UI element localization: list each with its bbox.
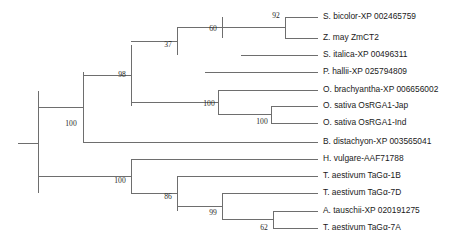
node-wheat-99-support-value: 99	[209, 208, 217, 217]
leaf-b-distachyon-label: B. distachyon-XP 003565041	[323, 136, 432, 146]
node-panicoid-37-support-value: 37	[164, 40, 172, 49]
leaf-o-sativa-ind-label: O. sativa OsRGA1-Ind	[323, 117, 407, 127]
leaf-p-hallii-label: P. hallii-XP 025794809	[323, 66, 407, 76]
node-upper-clade-support-value: 100	[65, 119, 77, 128]
leaf-s-bicolor-label: S. bicolor-XP 002465759	[323, 11, 416, 21]
node-wheat-62-support-value: 62	[260, 223, 268, 232]
leaf-o-brachyantha-label: O. brachyantha-XP 006656002	[323, 84, 439, 94]
leaf-z-may-label: Z. may ZmCT2	[323, 32, 379, 42]
support-values-group: 10098376092100100100869962	[65, 11, 280, 232]
node-grass-98-support-value: 98	[118, 70, 126, 79]
leaf-t-aestivum-7d-label: T. aestivum TaGα-7D	[323, 187, 401, 197]
node-sativa-100-support-value: 100	[256, 117, 268, 126]
node-triticeae-100-support-value: 100	[114, 176, 126, 185]
leaf-a-tauschii-label: A. tauschii-XP 020191275	[323, 205, 420, 215]
leaf-o-sativa-jap-label: O. sativa OsRGA1-Jap	[323, 100, 409, 110]
node-wheat-86-support-value: 86	[164, 192, 172, 201]
leaf-t-aestivum-1b-label: T. aestivum TaGα-1B	[323, 170, 401, 180]
leaf-h-vulgare-label: H. vulgare-AAF71788	[323, 153, 404, 163]
node-oryza-100-support-value: 100	[203, 99, 215, 108]
leaf-labels-group: S. bicolor-XP 002465759Z. may ZmCT2S. it…	[323, 11, 439, 232]
phylogenetic-tree-figure: 10098376092100100100869962 S. bicolor-XP…	[0, 0, 460, 247]
tree-canvas: 10098376092100100100869962 S. bicolor-XP…	[0, 0, 460, 247]
leaf-t-aestivum-7a-label: T. aestivum TaGα-7A	[323, 222, 401, 232]
node-sorghum-92-support-value: 92	[272, 11, 280, 20]
leaf-s-italica-label: S. italica-XP 00496311	[323, 49, 408, 59]
node-andropog-60-support-value: 60	[209, 24, 217, 33]
